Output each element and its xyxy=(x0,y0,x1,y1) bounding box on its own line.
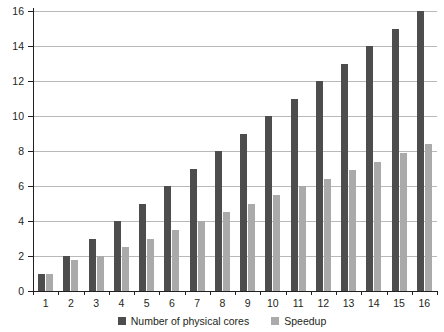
bar-group xyxy=(387,11,412,291)
bar-speedup xyxy=(223,212,230,291)
bar-speedup xyxy=(400,153,407,291)
bar-cores xyxy=(392,29,399,292)
x-axis-tick-label: 5 xyxy=(134,297,159,309)
x-axis-tick xyxy=(412,291,413,295)
bar-cores xyxy=(265,116,272,291)
bar-speedup xyxy=(172,230,179,291)
y-axis-tick-label: 16 xyxy=(0,6,24,16)
x-axis-tick-label: 10 xyxy=(260,297,285,309)
bar-group xyxy=(235,11,260,291)
x-axis-tick-label: 12 xyxy=(311,297,336,309)
bar-cores xyxy=(366,46,373,291)
bar-group xyxy=(134,11,159,291)
x-axis-tick-label: 14 xyxy=(361,297,386,309)
bar-chart: 0246810121416 12345678910111213141516 Nu… xyxy=(0,0,444,332)
x-axis-tick-label: 7 xyxy=(185,297,210,309)
bar-cores xyxy=(215,151,222,291)
x-axis-tick xyxy=(387,291,388,295)
x-axis-tick xyxy=(109,291,110,295)
bar-cores xyxy=(63,256,70,291)
bar-speedup xyxy=(324,179,331,291)
y-axis-labels: 0246810121416 xyxy=(0,0,26,300)
x-axis-tick xyxy=(185,291,186,295)
bar-speedup xyxy=(198,221,205,291)
legend-item[interactable]: Number of physical cores xyxy=(118,316,249,327)
y-axis-tick xyxy=(28,81,33,82)
x-axis-tick-label: 3 xyxy=(84,297,109,309)
bar-group xyxy=(210,11,235,291)
bar-speedup xyxy=(374,162,381,292)
x-axis-tick-label: 15 xyxy=(387,297,412,309)
y-axis-tick-label: 10 xyxy=(0,111,24,121)
y-axis-tick-label: 12 xyxy=(0,76,24,86)
x-axis-tick xyxy=(159,291,160,295)
bar-cores xyxy=(291,99,298,292)
bar-speedup xyxy=(97,256,104,291)
x-axis-tick xyxy=(311,291,312,295)
y-axis-tick xyxy=(28,221,33,222)
legend-label: Speedup xyxy=(284,316,326,327)
y-axis-tick xyxy=(28,291,33,292)
bar-group xyxy=(412,11,437,291)
bar-speedup xyxy=(248,204,255,292)
y-axis-tick-label: 8 xyxy=(0,146,24,156)
legend-label: Number of physical cores xyxy=(131,316,249,327)
bar-group xyxy=(361,11,386,291)
bar-group xyxy=(311,11,336,291)
bar-group xyxy=(185,11,210,291)
bar-speedup xyxy=(425,144,432,291)
x-axis-tick-label: 4 xyxy=(109,297,134,309)
y-axis-tick-label: 4 xyxy=(0,216,24,226)
bar-group xyxy=(33,11,58,291)
x-axis-tick xyxy=(437,291,438,295)
y-axis-tick xyxy=(28,11,33,12)
bar-groups xyxy=(33,11,437,291)
x-axis-tick-label: 2 xyxy=(58,297,83,309)
bar-cores xyxy=(139,204,146,292)
x-axis-tick xyxy=(336,291,337,295)
y-axis-tick xyxy=(28,186,33,187)
x-axis-tick-label: 16 xyxy=(412,297,437,309)
x-axis-tick xyxy=(210,291,211,295)
chart-legend: Number of physical coresSpeedup xyxy=(0,313,444,329)
bar-group xyxy=(159,11,184,291)
x-axis-tick xyxy=(58,291,59,295)
legend-swatch-icon xyxy=(118,317,126,325)
bar-cores xyxy=(417,11,424,291)
x-axis-tick-label: 6 xyxy=(159,297,184,309)
bar-cores xyxy=(190,169,197,292)
y-axis-tick-label: 14 xyxy=(0,41,24,51)
y-axis-tick-label: 0 xyxy=(0,286,24,296)
x-axis-tick xyxy=(361,291,362,295)
y-axis-tick xyxy=(28,46,33,47)
bar-speedup xyxy=(122,247,129,291)
y-axis-tick xyxy=(28,256,33,257)
bar-group xyxy=(260,11,285,291)
bar-group xyxy=(109,11,134,291)
x-axis-tick xyxy=(286,291,287,295)
y-axis-tick xyxy=(28,116,33,117)
x-axis-tick-label: 8 xyxy=(210,297,235,309)
bar-speedup xyxy=(46,274,53,292)
x-axis-tick xyxy=(260,291,261,295)
bar-group xyxy=(286,11,311,291)
bar-speedup xyxy=(299,186,306,291)
bar-cores xyxy=(38,274,45,292)
bar-cores xyxy=(240,134,247,292)
bar-group xyxy=(84,11,109,291)
legend-item[interactable]: Speedup xyxy=(271,316,326,327)
bar-group xyxy=(336,11,361,291)
bar-speedup xyxy=(273,195,280,291)
x-axis-tick-label: 9 xyxy=(235,297,260,309)
bar-cores xyxy=(316,81,323,291)
bar-cores xyxy=(341,64,348,292)
bar-speedup xyxy=(71,260,78,292)
x-axis-labels: 12345678910111213141516 xyxy=(33,297,438,311)
x-axis-tick xyxy=(84,291,85,295)
x-axis-tick xyxy=(235,291,236,295)
bar-cores xyxy=(114,221,121,291)
y-axis-tick-label: 2 xyxy=(0,251,24,261)
x-axis-tick xyxy=(134,291,135,295)
bar-cores xyxy=(164,186,171,291)
bar-speedup xyxy=(349,170,356,291)
